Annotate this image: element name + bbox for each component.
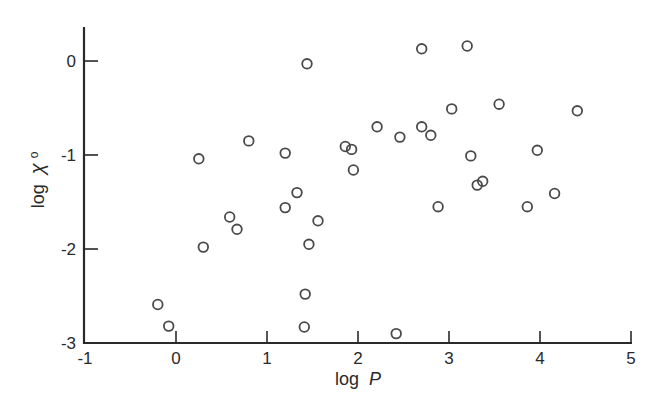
y-axis-subscript: o: [27, 151, 41, 158]
data-point-circle-icon: [232, 225, 242, 235]
data-point-circle-icon: [573, 106, 583, 116]
data-point-circle-icon: [372, 122, 382, 132]
data-point-circle-icon: [280, 148, 290, 158]
x-tick-label: 1: [262, 349, 271, 368]
y-tick-label: -1: [61, 146, 76, 165]
data-point-circle-icon: [417, 122, 427, 132]
data-point-circle-icon: [302, 59, 312, 69]
data-point-circle-icon: [494, 99, 504, 109]
data-point-circle-icon: [550, 189, 560, 199]
data-point-circle-icon: [349, 165, 359, 175]
data-point-circle-icon: [300, 322, 310, 332]
data-point-circle-icon: [426, 131, 436, 141]
data-point-circle-icon: [194, 154, 204, 164]
y-tick-label: -3: [61, 334, 76, 353]
data-point-circle-icon: [304, 240, 314, 250]
data-point-circle-icon: [164, 321, 174, 331]
data-point-circle-icon: [313, 216, 323, 226]
data-point-circle-icon: [153, 300, 163, 310]
x-axis-log: log: [335, 369, 359, 389]
data-point-circle-icon: [533, 146, 543, 156]
data-point-circle-icon: [433, 202, 443, 212]
y-ticks: 0-1-2-3: [61, 52, 98, 353]
x-tick-label: -1: [77, 349, 92, 368]
svg-text:log χ o: log χ o: [26, 151, 48, 208]
x-axis-title: log P: [335, 369, 381, 389]
data-point-circle-icon: [292, 188, 302, 198]
x-tick-label: 4: [535, 349, 544, 368]
axes: [83, 27, 632, 344]
data-point-circle-icon: [395, 132, 405, 142]
data-point-circle-icon: [466, 151, 476, 161]
y-axis-var: χ: [26, 162, 48, 176]
y-tick-label: -2: [61, 240, 76, 259]
data-point-circle-icon: [417, 44, 427, 54]
x-tick-label: 0: [171, 349, 180, 368]
data-point-circle-icon: [199, 242, 209, 252]
y-tick-label: 0: [67, 52, 76, 71]
x-axis-var: P: [369, 369, 381, 389]
data-point-circle-icon: [523, 202, 533, 212]
x-tick-label: 2: [353, 349, 362, 368]
x-tick-label: 3: [444, 349, 453, 368]
data-point-circle-icon: [244, 136, 254, 146]
y-axis-title: log χ o: [26, 151, 48, 208]
data-points: [153, 41, 582, 338]
scatter-plot: -1012345 0-1-2-3 log P log χ o: [0, 0, 663, 407]
data-point-circle-icon: [391, 329, 401, 339]
data-point-circle-icon: [225, 212, 235, 222]
data-point-circle-icon: [462, 41, 472, 51]
x-ticks: -1012345: [77, 331, 635, 368]
data-point-circle-icon: [280, 203, 290, 213]
data-point-circle-icon: [300, 289, 310, 299]
x-tick-label: 5: [626, 349, 635, 368]
y-axis-log: log: [28, 184, 48, 208]
data-point-circle-icon: [447, 104, 457, 114]
